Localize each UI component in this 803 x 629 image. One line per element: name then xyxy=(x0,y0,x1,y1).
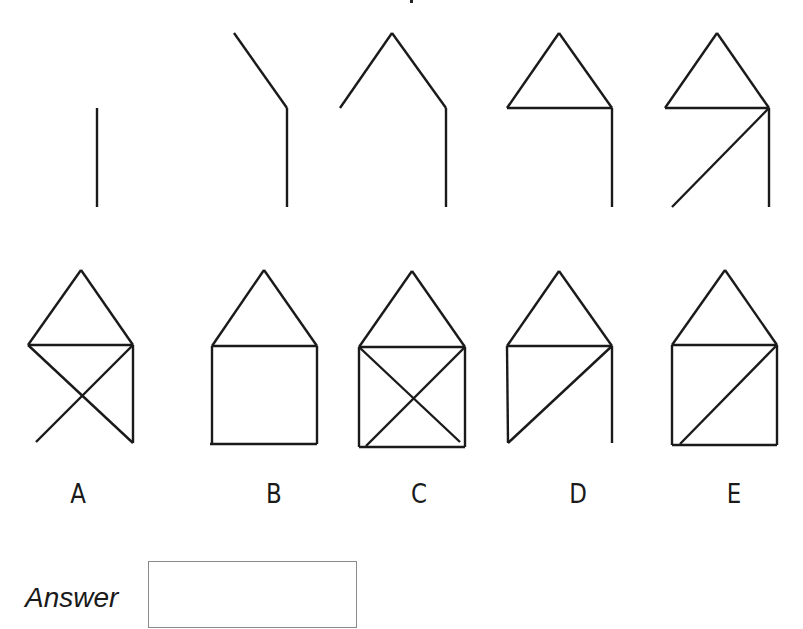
option-label-b[interactable]: B xyxy=(266,478,282,509)
line-segment xyxy=(412,271,465,347)
line-segment xyxy=(559,271,612,346)
line-segment xyxy=(672,270,725,345)
sequence-figures xyxy=(97,33,769,207)
line-segment xyxy=(340,33,392,108)
answer-input-box[interactable] xyxy=(148,561,357,628)
line-segment xyxy=(359,347,460,442)
option-figure-d[interactable] xyxy=(507,271,612,443)
line-segment xyxy=(717,33,769,108)
option-figure-b[interactable] xyxy=(210,270,317,444)
sequence-figure-4 xyxy=(507,33,612,207)
option-label-a[interactable]: A xyxy=(70,478,86,509)
puzzle-figures xyxy=(0,0,803,470)
line-segment xyxy=(725,270,777,345)
option-label-e[interactable]: E xyxy=(727,478,742,509)
line-segment xyxy=(36,345,133,442)
line-segment xyxy=(507,33,559,108)
sequence-figure-3 xyxy=(340,33,446,207)
line-segment xyxy=(508,346,612,443)
line-segment xyxy=(559,33,612,108)
line-segment xyxy=(672,108,769,207)
option-figure-c[interactable] xyxy=(359,271,465,447)
line-segment xyxy=(28,270,81,345)
line-segment xyxy=(81,270,133,345)
option-label-c[interactable]: C xyxy=(411,478,427,509)
line-segment xyxy=(680,345,777,444)
option-figures xyxy=(28,270,777,447)
line-segment xyxy=(264,270,317,346)
sequence-figure-2 xyxy=(234,33,287,207)
option-label-d[interactable]: D xyxy=(569,478,587,509)
line-segment xyxy=(507,271,559,346)
option-figure-e[interactable] xyxy=(672,270,777,445)
sequence-figure-5 xyxy=(665,33,769,207)
line-segment xyxy=(507,346,508,443)
answer-label: Answer xyxy=(25,582,118,614)
line-segment xyxy=(665,33,717,108)
line-segment xyxy=(392,33,446,108)
line-segment xyxy=(234,33,287,108)
line-segment xyxy=(359,271,412,347)
option-figure-a[interactable] xyxy=(28,270,133,443)
line-segment xyxy=(212,270,264,346)
